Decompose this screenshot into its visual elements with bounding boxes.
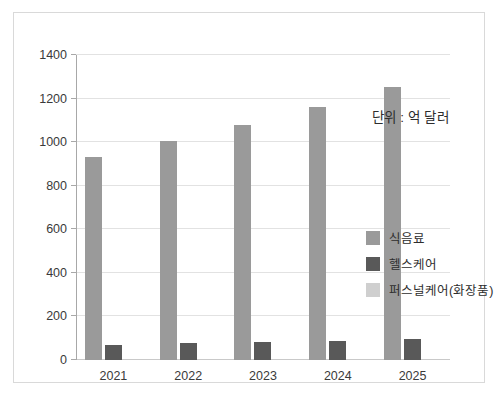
bar <box>105 345 122 360</box>
legend-item: 퍼스널케어(화장품) <box>366 280 493 299</box>
bar <box>404 339 421 360</box>
bar <box>384 87 401 360</box>
bar <box>180 343 197 360</box>
x-axis-tick-label: 2022 <box>174 369 202 383</box>
x-axis-tick-label: 2024 <box>324 369 352 383</box>
legend-swatch-icon <box>366 283 380 297</box>
y-axis-tick-label: 200 <box>46 309 67 323</box>
legend-label: 퍼스널케어(화장품) <box>389 280 493 299</box>
bar-groups: 20212022202320242025 <box>76 55 450 360</box>
x-axis-tick-label: 2023 <box>249 369 277 383</box>
y-axis-tick-label: 1000 <box>39 135 67 149</box>
chart-screenshot: 0200400600800100012001400 20212022202320… <box>0 0 500 397</box>
y-axis-tick-label: 0 <box>60 353 67 367</box>
legend-item: 헬스케어 <box>366 254 493 273</box>
chart-legend: 식음료헬스케어퍼스널케어(화장품) <box>366 228 493 306</box>
chart-frame: 0200400600800100012001400 20212022202320… <box>13 12 485 383</box>
bar <box>329 341 346 360</box>
y-axis-tick-label: 600 <box>46 222 67 236</box>
x-axis-tick-label: 2025 <box>399 369 427 383</box>
y-axis-tick-label: 800 <box>46 179 67 193</box>
legend-item: 식음료 <box>366 228 493 247</box>
bar <box>309 107 326 360</box>
bar <box>254 342 271 360</box>
legend-swatch-icon <box>366 257 380 271</box>
bar-group: 2022 <box>151 55 226 360</box>
legend-swatch-icon <box>366 231 380 245</box>
y-axis-tick-label: 400 <box>46 266 67 280</box>
bar <box>234 125 251 360</box>
bar-group: 2023 <box>226 55 301 360</box>
plot-area: 0200400600800100012001400 20212022202320… <box>76 55 450 360</box>
legend-label: 식음료 <box>389 228 425 247</box>
bar <box>160 141 177 360</box>
bar-group: 2024 <box>300 55 375 360</box>
x-axis-tick-label: 2021 <box>99 369 127 383</box>
bar <box>85 157 102 360</box>
bar-group: 2021 <box>76 55 151 360</box>
y-axis-tick-label: 1400 <box>39 48 67 62</box>
y-axis-tick-label: 1200 <box>39 92 67 106</box>
bar-group: 2025 <box>375 55 450 360</box>
legend-label: 헬스케어 <box>389 254 437 273</box>
unit-annotation: 단위 : 억 달러 <box>372 106 449 126</box>
